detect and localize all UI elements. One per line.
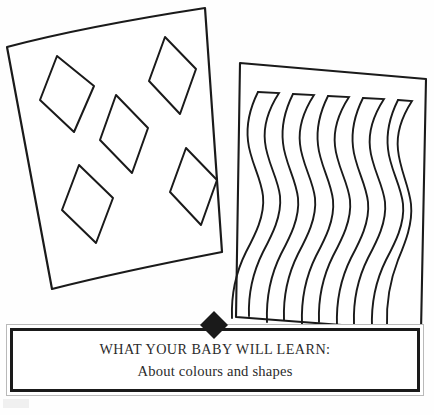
wavy-line-card (232, 63, 426, 331)
diamond-pattern-card (7, 8, 222, 289)
scan-artifact (3, 399, 29, 408)
diamond-card-outline (7, 8, 222, 289)
caption-subtitle: About colours and shapes (137, 362, 292, 381)
caption-title: WHAT YOUR BABY WILL LEARN: (99, 341, 330, 359)
page-canvas: WHAT YOUR BABY WILL LEARN: About colours… (0, 0, 434, 415)
black-diamond-marker-icon (199, 310, 229, 340)
